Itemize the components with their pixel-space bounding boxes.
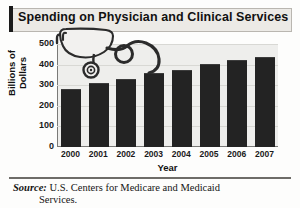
- x-tick-label-2002: 2002: [113, 149, 138, 161]
- x-tick-label-2006: 2006: [224, 149, 249, 161]
- bar-2006: [227, 60, 247, 147]
- x-axis-ticks: 20002001200220032004200520062007: [57, 149, 278, 161]
- bar-2000: [61, 89, 81, 147]
- page-title: Spending on Physician and Clinical Servi…: [18, 10, 288, 24]
- plot-area: [57, 44, 278, 147]
- x-tick-label-2003: 2003: [141, 149, 166, 161]
- bar-2001: [89, 83, 109, 147]
- chart-figure: Spending on Physician and Clinical Servi…: [0, 0, 300, 208]
- y-tick-label: 0: [2, 141, 54, 151]
- source-text: U.S. Centers for Medicare and Medicaid: [49, 182, 220, 193]
- y-tick-label: 100: [2, 120, 54, 130]
- title-accent-bar: [9, 6, 13, 32]
- x-tick-label-2001: 2001: [86, 149, 111, 161]
- x-tick-label-2004: 2004: [169, 149, 194, 161]
- bar-2005: [200, 64, 220, 147]
- source-note: Source: U.S. Centers for Medicare and Me…: [13, 182, 291, 206]
- x-tick-label-2000: 2000: [58, 149, 83, 161]
- source-divider: [9, 177, 291, 179]
- bar-series: [57, 44, 278, 147]
- bar-2007: [255, 57, 275, 147]
- bar-2002: [116, 79, 136, 147]
- bar-2003: [144, 73, 164, 147]
- x-tick-label-2007: 2007: [252, 149, 277, 161]
- x-axis-label: Year: [57, 162, 278, 173]
- source-label: Source:: [13, 182, 47, 193]
- source-text-continued: Services.: [39, 194, 291, 206]
- bar-2004: [172, 70, 192, 147]
- y-axis-label: Billions of Dollars: [6, 33, 28, 113]
- x-tick-label-2005: 2005: [197, 149, 222, 161]
